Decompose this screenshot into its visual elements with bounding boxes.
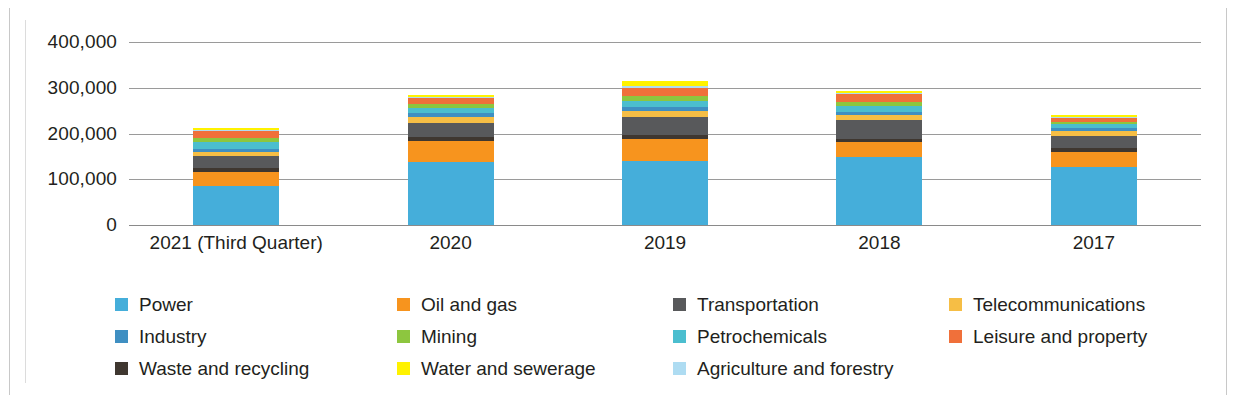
- legend-item-label: Waste and recycling: [139, 359, 309, 378]
- bar-segment-power[interactable]: [193, 186, 279, 225]
- y-tick-label: 300,000: [48, 77, 117, 99]
- legend-item[interactable]: Waste and recycling: [115, 359, 397, 378]
- bar-segment-power[interactable]: [622, 161, 708, 225]
- bar-segment-transportation[interactable]: [836, 120, 922, 138]
- legend-item-label: Agriculture and forestry: [697, 359, 893, 378]
- legend-swatch-icon: [673, 298, 686, 311]
- legend-item[interactable]: Mining: [397, 327, 673, 346]
- stacked-bar[interactable]: [622, 81, 708, 225]
- bar-segment-leisure-and-property[interactable]: [193, 131, 279, 138]
- legend-swatch-icon: [949, 298, 962, 311]
- legend-item-label: Power: [139, 295, 193, 314]
- bar-slot: 2019: [558, 42, 772, 225]
- stacked-bar[interactable]: [193, 128, 279, 225]
- legend-swatch-icon: [397, 330, 410, 343]
- bar-segment-power[interactable]: [1051, 167, 1137, 225]
- x-axis-label: 2020: [429, 232, 471, 254]
- legend-swatch-icon: [115, 298, 128, 311]
- y-tick-label: 100,000: [48, 168, 117, 190]
- bar-segment-leisure-and-property[interactable]: [836, 94, 922, 102]
- legend-swatch-icon: [397, 362, 410, 375]
- bar-segment-leisure-and-property[interactable]: [622, 88, 708, 96]
- legend-item[interactable]: Industry: [115, 327, 397, 346]
- bar-segment-power[interactable]: [836, 157, 922, 225]
- chart-figure: 0100,000200,000300,000400,000 2021 (Thir…: [0, 0, 1236, 403]
- stacked-bar[interactable]: [1051, 115, 1137, 225]
- legend-item-label: Mining: [421, 327, 477, 346]
- legend-item-label: Leisure and property: [973, 327, 1147, 346]
- plot-area: 0100,000200,000300,000400,000 2021 (Thir…: [129, 42, 1201, 225]
- figure-left-rule: [9, 8, 10, 395]
- bar-segment-oil-and-gas[interactable]: [408, 141, 494, 162]
- legend-item-label: Telecommunications: [973, 295, 1145, 314]
- bar-segment-transportation[interactable]: [408, 123, 494, 138]
- bar-slot: 2017: [987, 42, 1201, 225]
- bar-segment-transportation[interactable]: [1051, 136, 1137, 148]
- x-axis-label: 2017: [1073, 232, 1115, 254]
- legend-swatch-icon: [115, 362, 128, 375]
- legend-item[interactable]: Transportation: [673, 295, 949, 314]
- bar-slot: 2018: [772, 42, 986, 225]
- legend-item-label: Petrochemicals: [697, 327, 827, 346]
- bar-segment-oil-and-gas[interactable]: [622, 139, 708, 161]
- legend-swatch-icon: [673, 362, 686, 375]
- gridline-0: [129, 225, 1201, 226]
- legend-item[interactable]: Agriculture and forestry: [673, 359, 949, 378]
- bar-segment-oil-and-gas[interactable]: [836, 142, 922, 157]
- bar-segment-oil-and-gas[interactable]: [1051, 152, 1137, 167]
- stacked-bar[interactable]: [408, 95, 494, 225]
- bar-slot: 2021 (Third Quarter): [129, 42, 343, 225]
- bar-segment-transportation[interactable]: [193, 156, 279, 168]
- chart-legend: PowerOil and gasTransportationTelecommun…: [115, 288, 1205, 384]
- figure-right-rule: [1226, 8, 1227, 395]
- stacked-bar[interactable]: [836, 91, 922, 225]
- legend-swatch-icon: [673, 330, 686, 343]
- bar-group: 2021 (Third Quarter)2020201920182017: [129, 42, 1201, 225]
- legend-item[interactable]: Power: [115, 295, 397, 314]
- legend-item[interactable]: Petrochemicals: [673, 327, 949, 346]
- y-tick-label: 200,000: [48, 123, 117, 145]
- y-tick-label: 0: [106, 214, 117, 236]
- bar-segment-power[interactable]: [408, 162, 494, 225]
- legend-item-label: Transportation: [697, 295, 819, 314]
- bar-segment-oil-and-gas[interactable]: [193, 172, 279, 186]
- x-axis-label: 2018: [858, 232, 900, 254]
- legend-item-label: Water and sewerage: [421, 359, 596, 378]
- legend-item[interactable]: Telecommunications: [949, 295, 1205, 314]
- legend-swatch-icon: [115, 330, 128, 343]
- bar-slot: 2020: [343, 42, 557, 225]
- x-axis-label: 2021 (Third Quarter): [150, 232, 323, 254]
- legend-item-label: Oil and gas: [421, 295, 517, 314]
- legend-item[interactable]: Oil and gas: [397, 295, 673, 314]
- x-axis-label: 2019: [644, 232, 686, 254]
- figure-inner-rule: [25, 20, 26, 383]
- bar-segment-transportation[interactable]: [622, 117, 708, 135]
- legend-item[interactable]: Water and sewerage: [397, 359, 673, 378]
- y-tick-label: 400,000: [48, 31, 117, 53]
- legend-swatch-icon: [397, 298, 410, 311]
- legend-swatch-icon: [949, 330, 962, 343]
- legend-item-label: Industry: [139, 327, 207, 346]
- legend-item[interactable]: Leisure and property: [949, 327, 1205, 346]
